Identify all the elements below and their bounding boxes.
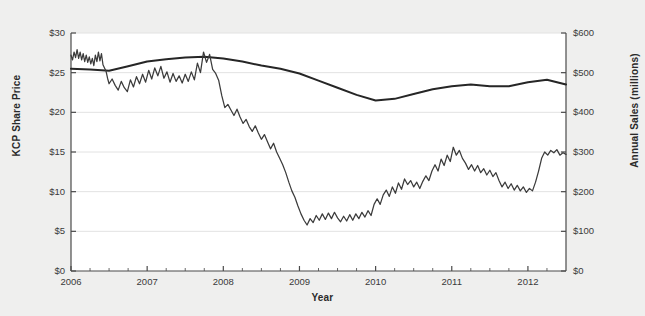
y-axis-right-title: Annual Sales (millions) (629, 41, 640, 181)
x-tick-label: 2007 (122, 276, 172, 287)
y-left-tick-label: $20 (19, 106, 65, 117)
y-left-tick-label: $25 (19, 67, 65, 78)
y-left-tick-label: $30 (19, 27, 65, 38)
y-right-tick-label: $0 (573, 265, 623, 276)
x-tick-label: 2008 (198, 276, 248, 287)
x-tick-label: 2010 (351, 276, 401, 287)
y-right-tick-label: $300 (573, 146, 623, 157)
y-right-tick-label: $100 (573, 225, 623, 236)
x-tick-label: 2011 (427, 276, 477, 287)
chart-plot-svg (0, 0, 645, 316)
y-left-tick-label: $10 (19, 186, 65, 197)
x-tick-label: 2009 (274, 276, 324, 287)
y-axis-left-title: KCP Share Price (11, 56, 22, 176)
y-right-tick-label: $200 (573, 186, 623, 197)
y-right-tick-label: $400 (573, 106, 623, 117)
y-left-tick-label: $0 (19, 265, 65, 276)
y-left-tick-label: $15 (19, 146, 65, 157)
y-right-tick-label: $600 (573, 27, 623, 38)
y-left-tick-label: $5 (19, 225, 65, 236)
x-axis-title: Year (0, 292, 645, 303)
x-tick-label: 2006 (46, 276, 96, 287)
y-right-tick-label: $500 (573, 67, 623, 78)
x-tick-label: 2012 (503, 276, 553, 287)
chart-figure: $0$5$10$15$20$25$30$0$100$200$300$400$50… (0, 0, 645, 316)
